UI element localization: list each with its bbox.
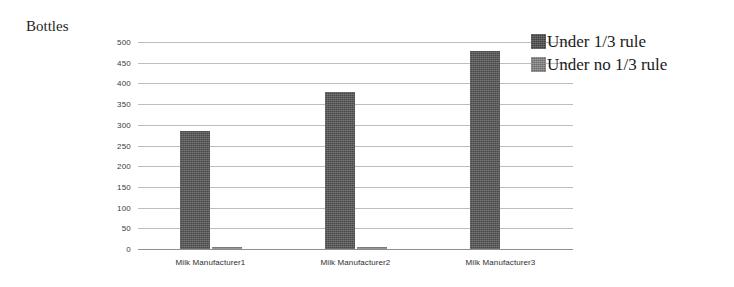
x-axis-tick-label: Milk Manufacturer2 <box>321 258 391 267</box>
y-axis-tick-label: 250 <box>117 141 131 150</box>
y-axis-tick-label: 350 <box>117 100 131 109</box>
gridline <box>138 83 573 84</box>
y-axis-tick-label: 50 <box>122 224 131 233</box>
bar <box>212 247 242 249</box>
bar <box>470 51 500 249</box>
bar <box>180 131 210 249</box>
y-axis-tick-label: 200 <box>117 162 131 171</box>
y-axis-tick-label: 100 <box>117 203 131 212</box>
gridline <box>138 104 573 105</box>
y-axis-tick-label: 150 <box>117 182 131 191</box>
gridline <box>138 125 573 126</box>
legend-item[interactable]: Under 1/3 rule <box>531 30 731 53</box>
legend-item-label: Under 1/3 rule <box>547 32 646 51</box>
y-axis-tick-label: 450 <box>117 58 131 67</box>
bar <box>357 247 387 249</box>
y-axis-tick-label: 300 <box>117 120 131 129</box>
bar <box>325 92 355 249</box>
chart-legend: Under 1/3 ruleUnder no 1/3 rule <box>531 30 731 76</box>
gridline <box>138 63 573 64</box>
legend-item[interactable]: Under no 1/3 rule <box>531 53 731 76</box>
legend-swatch-light <box>531 57 546 72</box>
chart-title: Bottles <box>26 17 69 35</box>
y-axis-tick-label: 0 <box>126 245 131 254</box>
y-axis-tick-label: 400 <box>117 79 131 88</box>
bar-chart-figure: Bottles 050100150200250300350400450500 M… <box>0 0 734 287</box>
legend-swatch-dark <box>531 34 546 49</box>
x-axis-tick-label: Milk Manufacturer3 <box>466 258 536 267</box>
legend-item-label: Under no 1/3 rule <box>547 55 667 74</box>
gridline <box>138 249 573 250</box>
y-axis-tick-label: 500 <box>117 38 131 47</box>
gridline <box>138 42 573 43</box>
x-axis-tick-label: Milk Manufacturer1 <box>176 258 246 267</box>
plot-area: 050100150200250300350400450500 Milk Manu… <box>138 42 573 249</box>
